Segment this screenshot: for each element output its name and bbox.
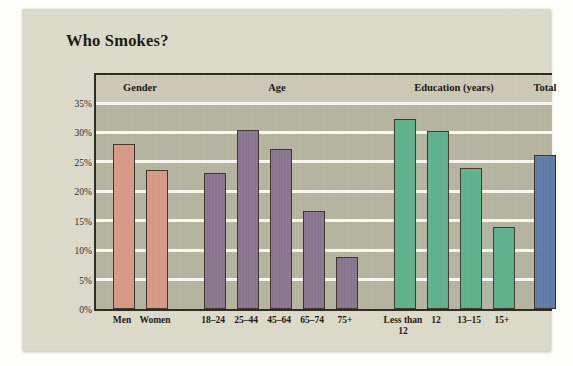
y-axis-tick-label: 30% — [75, 128, 92, 138]
x-axis-tick-label: 15+ — [495, 315, 510, 326]
bar — [460, 168, 482, 309]
bar — [534, 155, 556, 309]
y-axis-tick-label: 0% — [79, 305, 92, 315]
y-axis-tick-label: 5% — [79, 276, 92, 286]
x-axis-tick-label: 25–44 — [234, 315, 258, 326]
x-axis-tick-label: 18–24 — [201, 315, 225, 326]
y-axis-tick-label: 35% — [75, 99, 92, 109]
bar — [146, 170, 168, 309]
page-title: Who Smokes? — [66, 31, 169, 51]
bar — [303, 211, 325, 309]
x-axis-tick-label: 45–64 — [267, 315, 291, 326]
group-header-total: Total — [534, 82, 557, 93]
y-axis-tick-label: 15% — [75, 217, 92, 227]
chart-page: Who Smokes? 0%5%10%15%20%25%30%35% Gende… — [0, 0, 573, 366]
bar — [204, 173, 226, 309]
x-axis-tick-label: Less than 12 — [384, 315, 423, 337]
x-axis-tick-label: 13–15 — [457, 315, 481, 326]
bar — [113, 144, 135, 309]
x-axis-tick-label: 12 — [431, 315, 441, 326]
bar — [237, 130, 259, 310]
bar — [394, 119, 416, 309]
group-header-education-years: Education (years) — [414, 82, 494, 93]
y-axis-tick-label: 20% — [75, 187, 92, 197]
y-axis-tick-label: 10% — [75, 246, 92, 256]
bar — [427, 131, 449, 309]
x-axis-tick-label: 75+ — [338, 315, 353, 326]
y-axis: 0%5%10%15%20%25%30%35% — [60, 73, 92, 311]
x-axis-tick-label: Women — [139, 315, 170, 326]
gridline — [96, 160, 552, 163]
bar — [493, 227, 515, 309]
group-header-gender: Gender — [123, 82, 157, 93]
plot-area — [96, 105, 552, 309]
y-axis-tick-label: 25% — [75, 158, 92, 168]
gridline — [96, 102, 552, 105]
bar — [270, 149, 292, 309]
x-axis-tick-label: 65–74 — [300, 315, 324, 326]
group-header-age: Age — [268, 82, 286, 93]
bar — [336, 257, 358, 309]
gridline — [96, 131, 552, 134]
chart-card: Who Smokes? 0%5%10%15%20%25%30%35% Gende… — [22, 9, 550, 351]
plot-frame: GenderAgeEducation (years)Total — [94, 73, 552, 311]
x-axis-tick-label: Men — [113, 315, 131, 326]
